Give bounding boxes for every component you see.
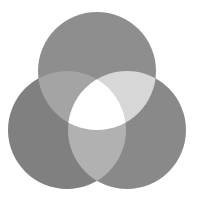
venn-logo [0,0,202,203]
three-circle-venn-icon [0,0,202,203]
